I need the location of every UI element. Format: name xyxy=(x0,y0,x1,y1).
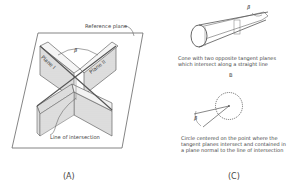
diagram-canvas xyxy=(0,0,290,187)
panel-c-label: (C) xyxy=(228,172,240,181)
circle-angle-beta: β xyxy=(194,115,197,122)
cone-caption: Cone with two opposite tangent planes wh… xyxy=(178,55,290,67)
plane-angle-beta: β xyxy=(74,47,77,54)
cone xyxy=(191,12,268,47)
cone-angle-beta: β xyxy=(247,4,250,11)
line-of-intersection-label: Line of intersection xyxy=(50,134,100,141)
beta-arc xyxy=(58,49,98,56)
front-wings xyxy=(37,84,112,136)
circle-caption: Circle centered on the point where the t… xyxy=(181,135,290,154)
sub-label-b: B xyxy=(229,72,233,79)
normal-circle xyxy=(194,93,243,128)
panel-a-label: (A) xyxy=(63,172,75,181)
reference-plane-label: Reference plane xyxy=(85,23,127,30)
